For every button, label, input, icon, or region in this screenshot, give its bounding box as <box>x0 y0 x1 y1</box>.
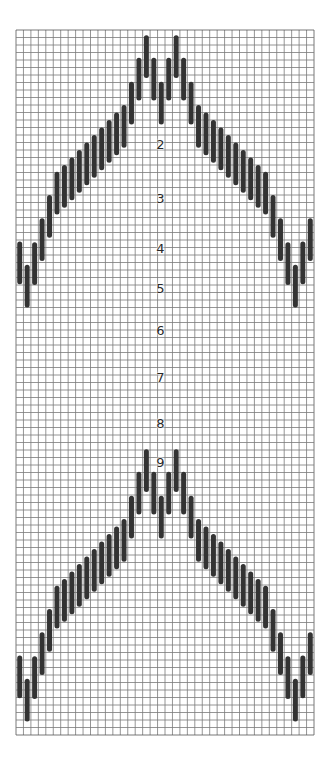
row-label-2: 2 <box>156 138 164 151</box>
row-label-7: 7 <box>156 371 164 384</box>
row-label-9: 9 <box>156 456 164 469</box>
row-label-4: 4 <box>156 242 164 255</box>
knitting-chart <box>0 0 333 771</box>
row-label-5: 5 <box>156 282 164 295</box>
row-label-3: 3 <box>156 192 164 205</box>
row-label-6: 6 <box>156 324 164 337</box>
chart-grid <box>16 30 314 735</box>
row-label-8: 8 <box>156 417 164 430</box>
